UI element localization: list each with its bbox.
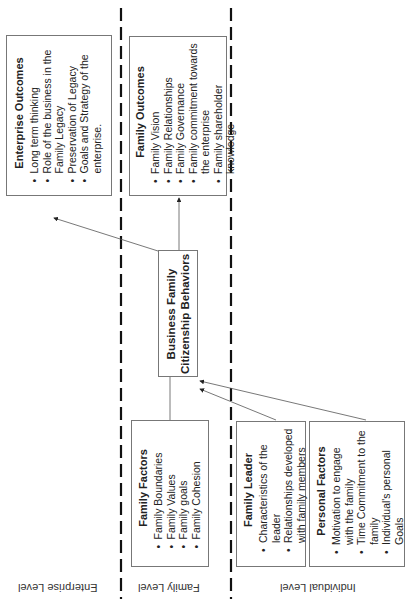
business-family-citizenship-box: Business Family Citizenship Behaviors	[158, 250, 198, 377]
family-leader-list: Characteristics of the leader Relationsh…	[257, 427, 307, 553]
enterprise-outcomes-title: Enterprise Outcomes	[13, 42, 26, 183]
list-item: Goals and Strategy of the enterprise.	[78, 42, 103, 173]
list-item: Role of the business in the Family Legac…	[41, 42, 66, 173]
personal-factors-box: Personal Factors Motivation to engage wi…	[309, 421, 405, 567]
family-outcomes-title: Family Outcomes	[134, 40, 147, 184]
level-label-family: Family Level	[138, 582, 200, 594]
list-item: Preservation of Legacy	[66, 42, 79, 173]
family-factors-title: Family Factors	[137, 426, 150, 549]
diagram: Enterprise Outcomes Long term thinking R…	[0, 0, 419, 599]
level-label-individual: Individual Level	[280, 582, 356, 594]
arrow-family-leader-to-bfcb	[200, 389, 276, 420]
list-item: Family shareholder knowledge	[212, 40, 237, 174]
arrow-bfcb-to-enterprise	[54, 218, 158, 251]
family-leader-box: Family Leader Characteristics of the lea…	[236, 421, 306, 567]
list-item: Long term thinking	[28, 42, 41, 173]
bfcb-title-line1: Business Family	[164, 251, 178, 376]
list-item: Family Boundaries	[152, 426, 165, 539]
enterprise-outcomes-list: Long term thinking Role of the business …	[28, 42, 103, 183]
list-item: Family Vision	[149, 40, 162, 174]
arrow-personal-factors-to-bfcb	[200, 381, 366, 420]
personal-factors-title: Personal Factors	[315, 427, 328, 555]
enterprise-outcomes-box: Enterprise Outcomes Long term thinking R…	[6, 35, 112, 196]
list-item: Family commitment towards the enterprise	[187, 40, 212, 174]
bfcb-title-line2: Citizenship Behaviors	[178, 251, 192, 376]
list-item: Motivation to engage with the family	[330, 427, 355, 545]
list-item: Family goals	[177, 426, 190, 539]
list-item: Individual's personal Goals	[380, 427, 405, 545]
family-leader-title: Family Leader	[242, 427, 255, 553]
list-item: Family Governance	[174, 40, 187, 174]
family-outcomes-box: Family Outcomes Family Vision Family Rel…	[129, 36, 227, 196]
personal-factors-list: Motivation to engage with the family Tim…	[330, 427, 405, 555]
level-label-enterprise: Enterprise Level	[18, 582, 98, 594]
list-item: Relationships developed with family memb…	[282, 427, 307, 543]
family-factors-box: Family Factors Family Boundaries Family …	[131, 420, 209, 567]
list-item: Time Commitment to the family	[355, 427, 380, 545]
list-item: Family Cohesion	[190, 426, 203, 539]
family-outcomes-list: Family Vision Family Relationships Famil…	[149, 40, 237, 184]
family-factors-list: Family Boundaries Family Values Family g…	[152, 426, 202, 549]
list-item: Family Relationships	[162, 40, 175, 174]
list-item: Family Values	[165, 426, 178, 539]
list-item: Characteristics of the leader	[257, 427, 282, 543]
